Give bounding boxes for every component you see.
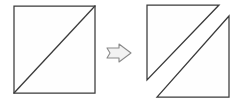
transformation-diagram	[0, 0, 246, 103]
transformation-arrow-group	[107, 44, 131, 62]
right-arrow-outline-icon	[107, 44, 131, 62]
diagram-canvas: Square divided by a diagonal transformed…	[0, 0, 246, 103]
source-square-figure	[14, 6, 95, 93]
result-triangles-figure	[147, 5, 229, 97]
